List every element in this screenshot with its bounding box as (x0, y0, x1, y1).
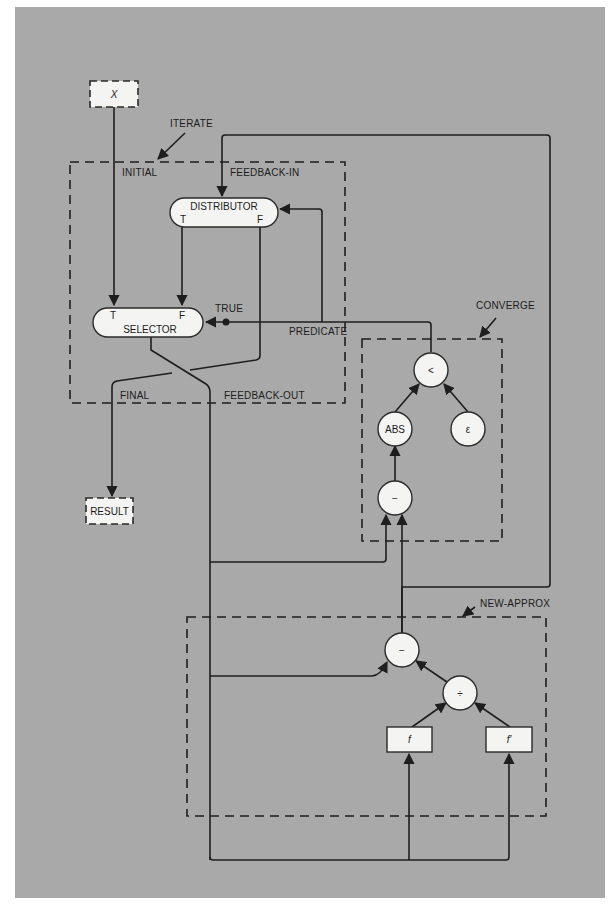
wire-f-to-div (412, 703, 446, 727)
iterate-label: ITERATE (170, 118, 213, 129)
svg-text:F: F (257, 214, 263, 225)
wire-x-to-converge-subtract (210, 515, 386, 562)
wire-abs-to-lt (395, 384, 419, 412)
svg-text:X: X (110, 89, 118, 100)
predicate-port-label: PREDICATE (289, 326, 347, 337)
svg-text:T: T (110, 310, 116, 321)
f-function-node[interactable]: f (387, 727, 432, 752)
svg-text:SELECTOR: SELECTOR (123, 324, 177, 335)
new-approx-label: NEW-APPROX (480, 598, 550, 609)
wire-div-to-sub (416, 661, 447, 682)
wire-x-to-f-bus (210, 754, 509, 860)
converge-pointer-icon (480, 318, 496, 337)
initial-port-label: INITIAL (122, 167, 158, 178)
feedback-out-port-label: FEEDBACK-OUT (224, 390, 305, 401)
dataflow-diagram: ITERATE CONVERGE NEW-APPROX INITIAL FEED… (0, 0, 613, 906)
wire-fprime-to-div (475, 703, 510, 727)
wire-eps-to-lt (444, 384, 468, 412)
distributor-node[interactable]: DISTRIBUTOR T F (170, 198, 278, 227)
feedback-in-port-label: FEEDBACK-IN (230, 167, 299, 178)
svg-text:RESULT: RESULT (90, 506, 129, 517)
svg-text:ABS: ABS (385, 424, 405, 435)
selector-node[interactable]: T F SELECTOR (93, 308, 203, 337)
epsilon-node[interactable]: ε (451, 412, 485, 446)
svg-text:−: − (392, 493, 398, 504)
abs-node[interactable]: ABS (378, 412, 412, 446)
new-approx-subtract-node[interactable]: − (385, 633, 419, 667)
converge-subtract-node[interactable]: − (378, 481, 412, 515)
less-than-node[interactable]: < (414, 353, 448, 387)
true-label: TRUE (215, 303, 243, 314)
converge-label: CONVERGE (476, 300, 535, 311)
new-approx-pointer-icon (463, 607, 475, 616)
svg-text:ε: ε (466, 424, 471, 435)
svg-text:÷: ÷ (457, 688, 463, 699)
input-terminal-x[interactable]: X (90, 81, 138, 107)
true-dot-icon (223, 319, 230, 326)
divide-node[interactable]: ÷ (443, 676, 477, 710)
f-prime-function-node[interactable]: f′ (486, 727, 532, 752)
output-terminal-result[interactable]: RESULT (86, 498, 133, 524)
iterate-pointer-icon (158, 133, 185, 159)
svg-text:T: T (180, 214, 186, 225)
wire-predicate-to-distributor (280, 209, 322, 322)
svg-text:DISTRIBUTOR: DISTRIBUTOR (190, 201, 258, 212)
svg-text:−: − (399, 645, 405, 656)
wire-distributor-f-to-result (112, 227, 260, 496)
wire-x-to-new-subtract (210, 662, 387, 676)
svg-text:F: F (179, 310, 185, 321)
wire-selector-to-feedback-out (151, 337, 210, 860)
new-approx-group-box (187, 617, 546, 816)
svg-text:<: < (428, 365, 434, 376)
final-port-label: FINAL (120, 390, 150, 401)
